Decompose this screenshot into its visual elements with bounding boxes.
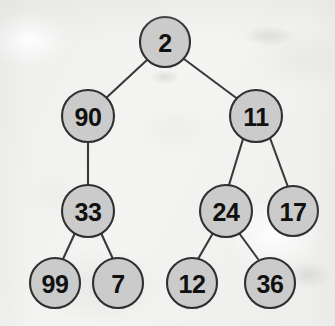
tree-edge (101, 233, 113, 259)
tree-node-layer: 290113324179971236 (30, 17, 318, 308)
tree-edge (105, 60, 147, 99)
tree-edge (239, 233, 258, 259)
tree-node-label: 90 (74, 103, 101, 131)
tree-node-label: 17 (279, 198, 306, 226)
tree-node-label: 33 (74, 198, 101, 226)
tree-node-label: 7 (111, 270, 125, 298)
binary-tree-figure: 290113324179971236 (0, 0, 335, 326)
tree-node-label: 11 (243, 103, 269, 131)
tree-edge (229, 139, 243, 185)
tree-node[interactable]: 2 (140, 17, 190, 67)
tree-node[interactable]: 17 (268, 186, 318, 236)
tree-node[interactable]: 99 (30, 258, 80, 308)
tree-node[interactable]: 36 (245, 258, 295, 308)
tree-edge (270, 138, 288, 187)
tree-node[interactable]: 11 (230, 90, 282, 142)
tree-node-label: 12 (178, 270, 205, 298)
tree-canvas: 290113324179971236 (0, 0, 335, 326)
tree-node[interactable]: 12 (167, 258, 217, 308)
tree-edge (63, 233, 75, 259)
tree-node[interactable]: 33 (62, 185, 114, 237)
tree-node[interactable]: 7 (93, 258, 143, 308)
tree-node-label: 24 (212, 198, 240, 226)
tree-edge (198, 233, 213, 259)
tree-node-label: 36 (256, 270, 283, 298)
tree-node-label: 99 (41, 270, 68, 298)
tree-node[interactable]: 24 (200, 185, 252, 237)
tree-edge (184, 59, 239, 100)
tree-node[interactable]: 90 (62, 90, 114, 142)
tree-node-label: 2 (158, 29, 172, 57)
